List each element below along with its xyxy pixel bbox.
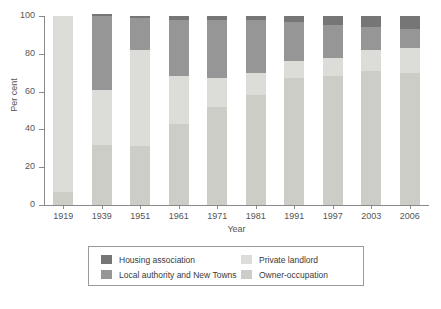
bar-segment (92, 145, 112, 205)
legend-swatch-icon (241, 255, 252, 264)
bar-segment (169, 124, 189, 205)
bar-segment (53, 16, 73, 192)
bar-segment (361, 50, 381, 71)
legend-swatch-icon (241, 270, 252, 279)
x-axis-tick (140, 205, 141, 209)
bar-segment (400, 29, 420, 48)
legend-label: Local authority and New Towns (119, 270, 237, 280)
y-axis-tick: 80 (39, 54, 44, 55)
y-axis-tick: 0 (39, 205, 44, 206)
bar-segment (207, 16, 227, 20)
bar-segment (323, 25, 343, 57)
y-axis-tick: 40 (39, 129, 44, 130)
x-axis-tick-label: 2003 (349, 211, 393, 221)
bar-1971 (207, 16, 227, 205)
x-axis-tick-label: 1961 (157, 211, 201, 221)
x-axis-tick (294, 205, 295, 209)
bar-segment (92, 90, 112, 145)
bar-segment (207, 20, 227, 79)
legend-column-left: Housing associationLocal authority and N… (101, 252, 237, 282)
bar-segment (361, 71, 381, 205)
legend-entry: Private landlord (241, 252, 328, 267)
y-axis-tick-label: 100 (20, 10, 35, 20)
x-axis-tick-label: 2006 (388, 211, 432, 221)
bar-segment (130, 146, 150, 205)
bar-segment (284, 16, 304, 22)
bar-segment (53, 192, 73, 205)
x-axis-tick (371, 205, 372, 209)
y-axis-tick-label: 0 (30, 199, 35, 209)
x-axis-tick-label: 1971 (195, 211, 239, 221)
x-axis-tick-label: 1981 (234, 211, 278, 221)
x-axis-tick (217, 205, 218, 209)
legend-label: Housing association (119, 255, 195, 265)
bar-segment (169, 20, 189, 77)
x-axis-tick-label: 1997 (311, 211, 355, 221)
bar-segment (169, 16, 189, 20)
bar-1997 (323, 16, 343, 205)
y-axis-tick-label: 60 (25, 86, 35, 96)
legend-swatch-icon (101, 270, 112, 279)
bar-segment (400, 73, 420, 205)
bar-1981 (246, 16, 266, 205)
legend-entry: Local authority and New Towns (101, 267, 237, 282)
bar-1939 (92, 16, 112, 205)
x-axis-tick (102, 205, 103, 209)
y-axis-tick: 100 (39, 16, 44, 17)
bar-segment (323, 76, 343, 205)
bar-segment (92, 14, 112, 16)
y-axis-tick-label: 80 (25, 48, 35, 58)
bar-segment (400, 16, 420, 29)
bar-segment (207, 78, 227, 106)
y-axis-tick: 60 (39, 92, 44, 93)
x-axis-tick-label: 1939 (80, 211, 124, 221)
bar-segment (246, 73, 266, 96)
bar-1961 (169, 16, 189, 205)
x-axis-tick-label: 1919 (41, 211, 85, 221)
bar-segment (284, 22, 304, 62)
bar-segment (246, 16, 266, 20)
bar-2003 (361, 16, 381, 205)
x-axis-tick (333, 205, 334, 209)
x-axis-tick-label: 1951 (118, 211, 162, 221)
bar-1991 (284, 16, 304, 205)
legend-column-right: Private landlordOwner-occupation (241, 252, 328, 282)
x-axis-tick (179, 205, 180, 209)
bar-segment (169, 76, 189, 123)
legend-label: Private landlord (259, 255, 318, 265)
bar-segment (92, 16, 112, 90)
bar-2006 (400, 16, 420, 205)
plot-area: 0204060801001919193919511961197119811991… (44, 16, 429, 205)
legend-entry: Owner-occupation (241, 267, 328, 282)
x-axis-tick (256, 205, 257, 209)
bar-segment (130, 18, 150, 50)
bar-segment (130, 50, 150, 146)
bar-1919 (53, 16, 73, 205)
y-axis-tick: 20 (39, 167, 44, 168)
y-axis-line (44, 16, 45, 205)
legend-entry: Housing association (101, 252, 237, 267)
housing-tenure-stacked-bar-chart: Per cent 0204060801001919193919511961197… (0, 0, 441, 309)
bar-segment (246, 95, 266, 205)
bar-segment (323, 58, 343, 77)
chart-legend: Housing associationLocal authority and N… (88, 246, 364, 286)
legend-label: Owner-occupation (259, 270, 328, 280)
y-axis-tick-label: 40 (25, 123, 35, 133)
legend-swatch-icon (101, 255, 112, 264)
bar-1951 (130, 16, 150, 205)
bar-segment (130, 16, 150, 18)
bar-segment (323, 16, 343, 25)
bar-segment (361, 27, 381, 50)
x-axis-tick (410, 205, 411, 209)
y-axis-title: Per cent (9, 55, 19, 135)
bar-segment (400, 48, 420, 73)
x-axis-title: Year (44, 224, 429, 234)
y-axis-tick-label: 20 (25, 161, 35, 171)
bar-segment (207, 107, 227, 205)
bar-segment (284, 61, 304, 78)
bar-segment (361, 16, 381, 27)
x-axis-tick-label: 1991 (272, 211, 316, 221)
bar-segment (246, 20, 266, 73)
x-axis-tick (63, 205, 64, 209)
bar-segment (284, 78, 304, 205)
